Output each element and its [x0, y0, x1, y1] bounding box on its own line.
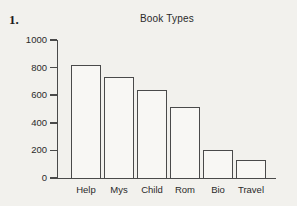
y-axis-tick: [50, 122, 57, 124]
bar-mys: [104, 77, 134, 178]
y-axis-tick-label: 600: [16, 89, 47, 101]
problem-number: 1.: [9, 12, 19, 28]
y-axis-tick: [50, 150, 57, 152]
bar-help: [71, 65, 101, 178]
y-axis-tick: [50, 177, 57, 179]
plot-area: 02004006008001000HelpMysChildRomBioTrave…: [57, 40, 276, 179]
y-axis-tick-label: 0: [16, 172, 47, 184]
x-axis-category-label: Travel: [226, 184, 276, 195]
y-axis-tick-label: 400: [16, 117, 47, 129]
y-axis-tick-label: 1000: [16, 34, 47, 46]
chart-title: Book Types: [58, 13, 276, 24]
bar-rom: [170, 107, 200, 178]
scanned-chart-page: 1. Book Types 02004006008001000HelpMysCh…: [0, 0, 297, 206]
y-axis-tick: [50, 39, 57, 41]
bar-bio: [203, 150, 233, 178]
y-axis-tick: [50, 67, 57, 69]
y-axis-tick-label: 200: [16, 144, 47, 156]
bar-travel: [236, 160, 266, 178]
y-axis-tick: [50, 94, 57, 96]
y-axis-tick-label: 800: [16, 62, 47, 74]
bar-child: [137, 90, 167, 178]
